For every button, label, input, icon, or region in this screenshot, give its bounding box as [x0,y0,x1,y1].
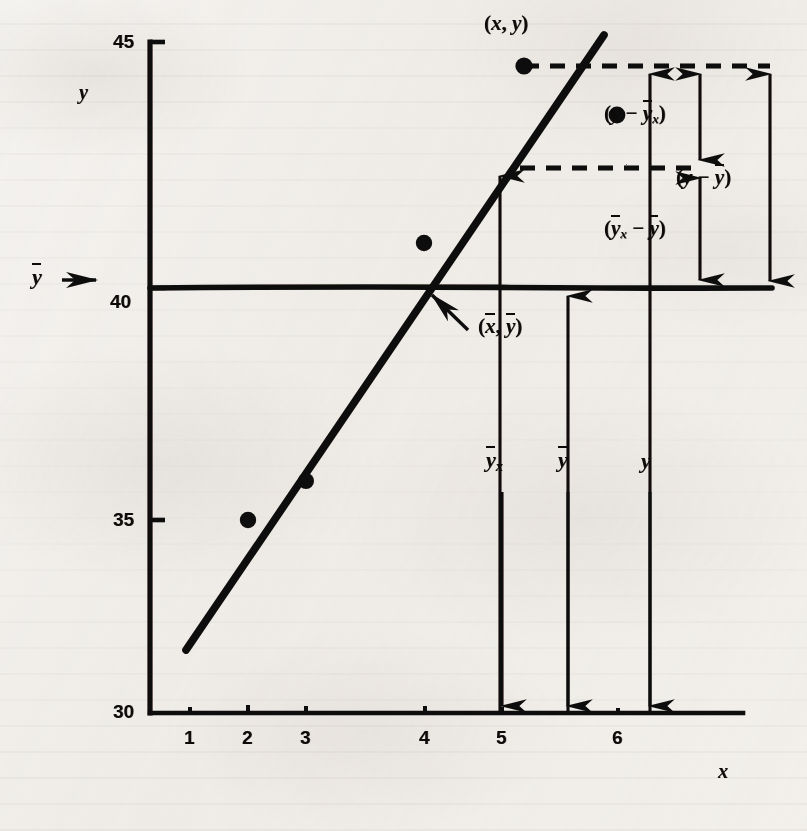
data-point-4 [515,57,532,74]
y-tick-label-30: 30 [113,702,134,721]
regression-line [186,35,604,650]
y-axis-label: y [79,82,88,102]
total-deviation-label: (y − y) [676,167,731,188]
x-tick-label-3: 3 [300,728,311,747]
x-tick-label-6: 6 [612,728,623,747]
data-point-1 [240,512,256,528]
unexplained-deviation-label: (y − yx) [604,103,666,126]
y-tick-label-40: 40 [110,292,131,311]
x-axis-label: x [718,761,728,781]
x-tick-label-4: 4 [419,728,430,747]
observed-point-label: (x, y) [484,13,528,34]
explained-deviation-label: (yx − y) [604,218,666,241]
figure-container: 45 40 35 30 y y 1 2 3 4 5 6 x (x, y) (x,… [0,0,807,831]
mean-line-label: y [32,266,42,288]
data-point-2 [298,473,314,489]
pointer-centroid [432,295,468,330]
mean-line-ybar [150,287,772,288]
y-tick-label-35: 35 [113,510,134,529]
centroid-label: (x, y) [478,316,522,337]
x-tick-label-5: 5 [496,728,507,747]
y-tick-label-45: 45 [113,32,134,51]
arrow-label-ybar: y [558,449,568,471]
data-point-3 [416,235,432,251]
arrow-label-y: y [641,450,651,472]
arrow-label-yhat: yx [486,449,503,473]
x-tick-label-1: 1 [184,728,195,747]
x-tick-label-2: 2 [242,728,253,747]
